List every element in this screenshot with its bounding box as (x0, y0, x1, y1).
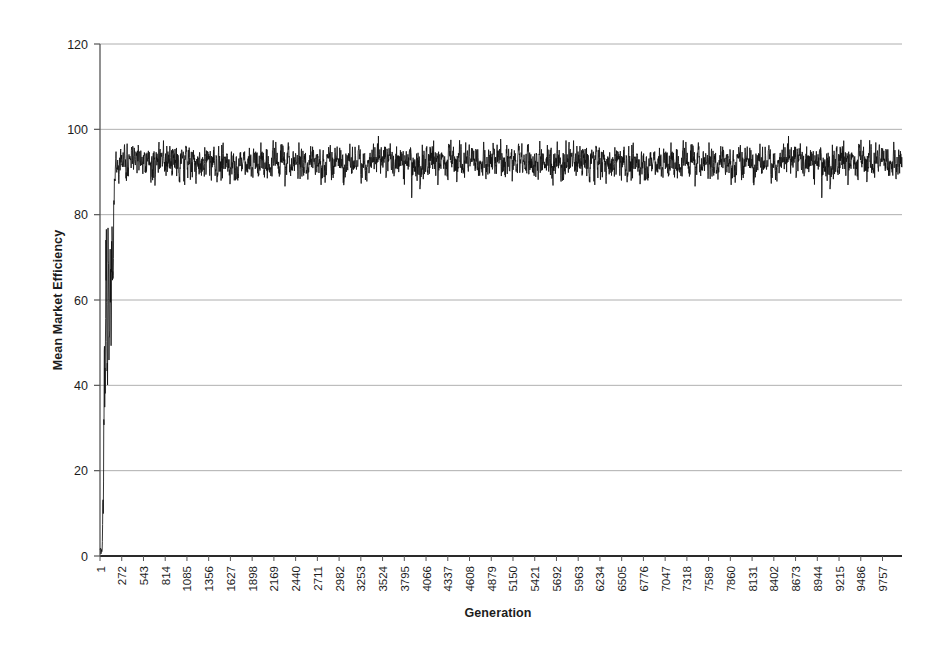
x-axis-tick-label: 8402 (768, 566, 780, 592)
x-axis-tick-label: 1085 (181, 566, 193, 592)
x-axis-tick-labels: 1272543814108513561627189821692440271129… (95, 565, 890, 591)
y-axis-tick-label: 100 (67, 123, 88, 137)
x-axis-tick-label: 9486 (855, 566, 867, 592)
x-axis-tick-label: 9757 (877, 566, 889, 592)
x-axis-tick-label: 7047 (660, 566, 672, 592)
x-axis-tick-label: 272 (116, 566, 128, 585)
x-axis-tick-label: 2169 (268, 566, 280, 592)
x-axis-tick-label: 4066 (421, 566, 433, 592)
x-axis-tick-label: 5421 (529, 566, 541, 592)
x-axis-tick-label: 814 (160, 565, 172, 585)
y-axis-title: Mean Market Efficiency (51, 230, 65, 370)
x-axis-tick-label: 5692 (551, 566, 563, 592)
x-axis-tick-label: 8944 (812, 565, 824, 591)
x-axis-tick-label: 6776 (638, 566, 650, 592)
x-axis-tick-label: 1898 (247, 566, 259, 592)
x-axis-tick-label: 7589 (703, 566, 715, 592)
x-axis-tick-label: 7860 (725, 566, 737, 592)
y-axis-tick-label: 20 (74, 464, 88, 478)
x-axis-tick-label: 2711 (312, 566, 324, 591)
x-axis-tick-label: 1627 (225, 566, 237, 592)
chart-background (0, 0, 945, 649)
x-axis-tick-label: 1356 (203, 566, 215, 592)
chart-canvas: 020406080100120 127254381410851356162718… (0, 0, 945, 649)
y-axis-tick-label: 80 (74, 208, 88, 222)
x-axis-tick-label: 6234 (594, 565, 606, 591)
x-axis-tick-label: 4879 (486, 566, 498, 592)
x-axis-tick-label: 8131 (747, 566, 759, 592)
x-axis-tick-label: 8673 (790, 566, 802, 592)
x-axis-tick-label: 2982 (334, 566, 346, 592)
x-axis-tick-label: 543 (138, 566, 150, 585)
x-axis-tick-label: 3524 (377, 565, 389, 591)
x-axis-tick-label: 3253 (355, 566, 367, 592)
x-axis-tick-label: 9215 (834, 566, 846, 592)
x-axis-tick-label: 6505 (616, 566, 628, 592)
y-axis-tick-label: 60 (74, 294, 88, 308)
y-axis-tick-label: 40 (74, 379, 88, 393)
x-axis-tick-label: 4337 (442, 566, 454, 592)
x-axis-tick-label: 5150 (507, 566, 519, 592)
y-axis-tick-label: 0 (81, 550, 88, 564)
x-axis-tick-label: 7318 (681, 566, 693, 592)
x-axis-tick-label: 2440 (290, 566, 302, 592)
x-axis-tick-label: 4608 (464, 566, 476, 592)
x-axis-tick-label: 1 (95, 566, 107, 572)
y-axis-tick-label: 120 (67, 38, 88, 52)
chart-figure: 020406080100120 127254381410851356162718… (0, 0, 945, 649)
x-axis-tick-label: 3795 (399, 566, 411, 592)
x-axis-tick-label: 5963 (573, 566, 585, 592)
x-axis-title: Generation (465, 606, 532, 620)
